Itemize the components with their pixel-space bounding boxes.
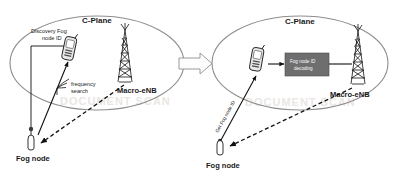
left-panel: C-Plane Discovery Fog node ID frequency … — [10, 16, 184, 163]
fog-node-id-decoding-box — [285, 53, 329, 76]
decoding-box-line1: Fog node ID — [290, 59, 316, 64]
phone-screen — [66, 39, 75, 48]
right-panel: C-Plane Fog node ID decoding Macro-eNB — [206, 16, 388, 170]
c-plane-label-right: C-Plane — [285, 17, 315, 26]
c-plane-label-left: C-Plane — [82, 16, 112, 25]
figure-container: DOCUMENT SCAN DOCUMENT SCAN C-Plane Disc… — [0, 0, 396, 177]
fog-node-label-left: Fog node — [16, 154, 50, 163]
frequency-label-line2: search — [71, 88, 88, 94]
ue-phone-icon-left — [61, 32, 78, 61]
network-diagram: DOCUMENT SCAN DOCUMENT SCAN C-Plane Disc… — [0, 0, 396, 177]
fog-node-label-right: Fog node — [206, 161, 240, 170]
frequency-label-line1: frequency — [71, 81, 96, 87]
block-arrow — [179, 53, 212, 74]
fog-node-icon-right — [217, 139, 223, 155]
macro-enb-tower-icon-right — [351, 24, 365, 84]
get-fog-node-id-label: Get Fog node ID — [215, 100, 237, 134]
ue-phone-icon-right — [249, 43, 265, 72]
macro-enb-tower-icon-left — [118, 23, 132, 82]
phone-screen — [253, 50, 262, 59]
watermark-text-left: DOCUMENT SCAN — [60, 95, 171, 107]
fog-node-icon-left — [28, 127, 34, 150]
frequency-wave-icon — [57, 79, 69, 95]
macro-enb-label-left: Macro-eNB — [117, 86, 157, 95]
discovery-label-line1: Discovery Fog — [31, 28, 67, 34]
decoding-box-line2: decoding — [294, 66, 313, 71]
macro-enb-label-right: Macro-eNB — [330, 90, 370, 99]
scan-watermark: DOCUMENT SCAN DOCUMENT SCAN — [60, 95, 356, 108]
fog-node-dot — [29, 127, 33, 131]
discovery-label-line2: node ID — [42, 35, 62, 41]
